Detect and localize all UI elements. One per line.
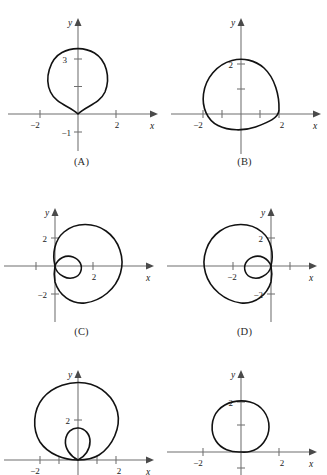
panel-E: −2 2 2 x y bbox=[0, 362, 163, 475]
polar-plot-svg-B: −2 2 2 x y bbox=[163, 6, 326, 156]
plot-D: −2 2 −2 x y bbox=[163, 204, 326, 326]
y-axis-label: y bbox=[230, 370, 236, 380]
curve-limacon-outer-C bbox=[54, 225, 122, 304]
x-tick-label-2: 2 bbox=[115, 120, 120, 130]
y-tick-label-2: 2 bbox=[66, 416, 71, 426]
x-axis-arrow-icon bbox=[313, 111, 321, 118]
plot-C: 2 2 −2 x y bbox=[0, 204, 163, 326]
y-axis-label: y bbox=[44, 208, 50, 218]
x-tick-label-neg2: −2 bbox=[227, 272, 237, 282]
y-axis-label: y bbox=[230, 18, 236, 28]
x-tick-label-neg2: −2 bbox=[193, 458, 203, 468]
x-axis-arrow-icon bbox=[146, 457, 154, 464]
curve-limacon-inner-D bbox=[245, 256, 271, 278]
y-tick-label-2: 2 bbox=[43, 234, 48, 244]
panel-F: −2 2 2 x y bbox=[163, 362, 326, 475]
y-tick-label-2: 2 bbox=[229, 60, 234, 70]
y-tick-label-2: 2 bbox=[229, 398, 234, 408]
curve-limacon-outer-E bbox=[35, 383, 119, 460]
polar-plot-svg-F: −2 2 2 x y bbox=[163, 362, 326, 475]
panel-B: −2 2 2 x y (B) bbox=[163, 6, 326, 156]
x-axis-label: x bbox=[312, 121, 318, 131]
polar-plot-svg-C: 2 2 −2 x y bbox=[0, 204, 163, 326]
polar-plot-svg-A: −2 2 3 −1 x y bbox=[0, 6, 163, 156]
y-axis-arrow-icon bbox=[75, 18, 82, 26]
x-axis-label: x bbox=[149, 121, 155, 131]
x-tick-label-neg2: −2 bbox=[193, 120, 203, 130]
x-axis-label: x bbox=[308, 273, 314, 283]
plot-B: −2 2 2 x y bbox=[163, 6, 326, 156]
y-tick-label-neg1: −1 bbox=[61, 128, 71, 138]
plot-A: −2 2 3 −1 x y bbox=[0, 6, 163, 156]
x-tick-label-2: 2 bbox=[117, 466, 122, 475]
y-axis-label: y bbox=[67, 370, 73, 380]
x-axis-label: x bbox=[145, 273, 151, 283]
x-tick-label-neg2: −2 bbox=[30, 466, 40, 475]
y-axis-arrow-icon bbox=[238, 370, 245, 378]
panel-caption-D: (D) bbox=[163, 326, 326, 337]
panel-D: −2 2 −2 x y (D) bbox=[163, 204, 326, 326]
x-axis-label: x bbox=[308, 459, 314, 469]
y-axis-arrow-icon bbox=[268, 208, 275, 216]
x-axis-arrow-icon bbox=[150, 111, 158, 118]
y-tick-label-3: 3 bbox=[63, 55, 68, 65]
y-tick-label-neg2: −2 bbox=[37, 290, 47, 300]
y-tick-label-neg2: −2 bbox=[253, 290, 263, 300]
y-axis-label: y bbox=[67, 18, 73, 28]
panel-caption-C: (C) bbox=[0, 326, 163, 337]
x-axis-arrow-icon bbox=[309, 449, 317, 456]
x-axis-label: x bbox=[145, 467, 151, 475]
x-tick-label-2: 2 bbox=[280, 120, 285, 130]
x-tick-label-2: 2 bbox=[92, 272, 97, 282]
y-axis-label: y bbox=[260, 208, 266, 218]
panel-caption-A: (A) bbox=[0, 156, 163, 167]
curve-limacon-inner-C bbox=[55, 256, 81, 278]
x-axis-arrow-icon bbox=[146, 263, 154, 270]
plot-F: −2 2 2 x y bbox=[163, 362, 326, 475]
y-axis-arrow-icon bbox=[52, 208, 59, 216]
x-tick-label-neg2: −2 bbox=[30, 120, 40, 130]
x-axis-arrow-icon bbox=[309, 263, 317, 270]
panel-A: −2 2 3 −1 x y (A) bbox=[0, 6, 163, 156]
polar-plot-svg-E: −2 2 2 x y bbox=[0, 362, 163, 475]
x-tick-label-2: 2 bbox=[280, 458, 285, 468]
y-axis-arrow-icon bbox=[238, 18, 245, 26]
y-axis-arrow-icon bbox=[75, 370, 82, 378]
panel-caption-B: (B) bbox=[163, 156, 326, 167]
panel-C: 2 2 −2 x y (C) bbox=[0, 204, 163, 326]
polar-plot-svg-D: −2 2 −2 x y bbox=[163, 204, 326, 326]
plot-E: −2 2 2 x y bbox=[0, 362, 163, 475]
y-tick-label-2: 2 bbox=[259, 234, 264, 244]
